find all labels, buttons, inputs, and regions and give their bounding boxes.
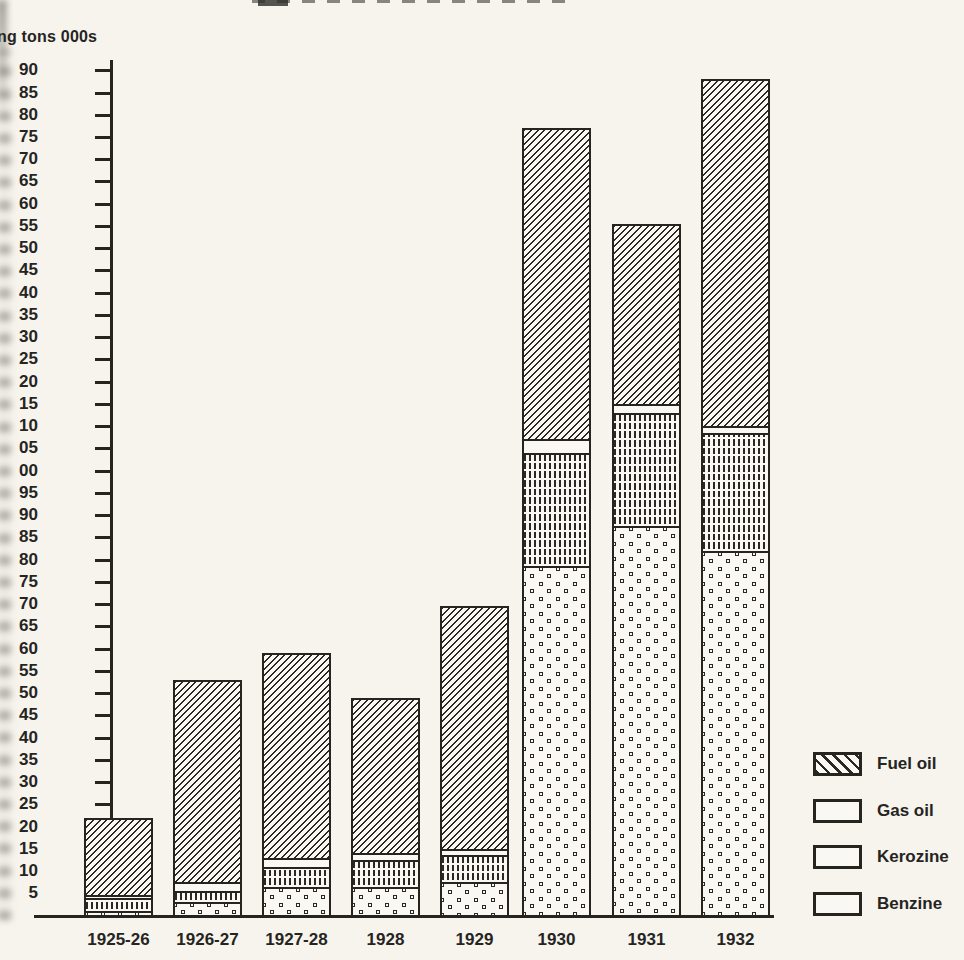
segment-fuel-oil: [86, 818, 151, 896]
y-tick-label: 30: [0, 772, 38, 792]
y-tick-label: 80: [0, 105, 38, 125]
y-tick-label: 50: [0, 683, 38, 703]
cropped-title-fragment: [252, 0, 567, 3]
y-tick: [95, 403, 110, 406]
segment-fuel-oil: [524, 128, 589, 439]
y-tick-label: 40: [0, 728, 38, 748]
bar-1930: [522, 128, 591, 915]
y-tick-label: 5: [0, 883, 38, 903]
x-axis-label-1930: 1930: [512, 930, 602, 950]
y-tick-label: 10: [0, 416, 38, 436]
x-axis-label-1925-26: 1925-26: [74, 930, 164, 950]
segment-gas-oil: [442, 849, 507, 856]
segment-gas-oil: [524, 439, 589, 452]
y-tick-label: 45: [0, 705, 38, 725]
y-tick-label: 25: [0, 349, 38, 369]
y-tick-label: 15: [0, 394, 38, 414]
y-tick-label: 05: [0, 438, 38, 458]
x-axis-label-1926-27: 1926-27: [163, 930, 253, 950]
bar-1926-27: [173, 680, 242, 916]
segment-gas-oil: [175, 882, 240, 891]
segment-benzine: [442, 882, 507, 915]
segment-gas-oil: [703, 426, 768, 433]
y-tick: [95, 737, 110, 740]
y-tick-label: 40: [0, 283, 38, 303]
scanned-chart-page: ng tons 000s 908580757065605550454035302…: [0, 0, 964, 960]
y-tick-label: 60: [0, 639, 38, 659]
y-tick-label: 20: [0, 372, 38, 392]
legend-label: Benzine: [877, 894, 942, 914]
y-tick: [95, 358, 110, 361]
y-tick: [95, 292, 110, 295]
segment-benzine: [86, 911, 151, 915]
y-tick: [95, 247, 110, 250]
y-tick: [95, 781, 110, 784]
cropped-title-initial: [258, 0, 288, 6]
y-tick-label: 75: [0, 572, 38, 592]
x-axis-label-1927-28: 1927-28: [252, 930, 342, 950]
y-tick-label: 30: [0, 327, 38, 347]
segment-kerozine: [703, 433, 768, 551]
segment-kerozine: [524, 453, 589, 566]
segment-kerozine: [442, 855, 507, 882]
y-tick-label: 55: [0, 661, 38, 681]
legend-item-benzine: Benzine: [813, 892, 963, 916]
legend-label: Fuel oil: [877, 754, 937, 774]
y-tick-label: 35: [0, 750, 38, 770]
segment-fuel-oil: [614, 224, 679, 404]
y-tick-label: 65: [0, 616, 38, 636]
y-tick: [95, 559, 110, 562]
y-tick: [95, 69, 110, 72]
y-tick: [95, 803, 110, 806]
y-tick: [95, 648, 110, 651]
segment-benzine: [703, 551, 768, 916]
segment-benzine: [264, 887, 329, 916]
y-axis-line: [110, 60, 113, 918]
legend-swatch-benzine: [813, 892, 862, 916]
y-tick: [95, 625, 110, 628]
y-tick-label: 60: [0, 194, 38, 214]
bar-1931: [612, 224, 681, 916]
y-tick: [95, 759, 110, 762]
y-tick-label: 70: [0, 594, 38, 614]
y-axis-title: ng tons 000s: [0, 28, 97, 46]
y-tick: [95, 670, 110, 673]
bar-1925-26: [84, 818, 153, 916]
segment-gas-oil: [264, 858, 329, 867]
y-tick: [95, 492, 110, 495]
y-tick-label: 85: [0, 527, 38, 547]
segment-gas-oil: [353, 853, 418, 860]
y-tick-label: 45: [0, 260, 38, 280]
legend-item-gas-oil: Gas oil: [813, 799, 963, 823]
y-tick: [95, 692, 110, 695]
segment-kerozine: [264, 867, 329, 887]
y-tick: [95, 114, 110, 117]
bar-1928: [351, 698, 420, 916]
legend-item-kerozine: Kerozine: [813, 845, 963, 869]
y-tick-label: 85: [0, 83, 38, 103]
y-tick-label: 90: [0, 60, 38, 80]
legend-swatch-gas-oil: [813, 799, 862, 823]
y-tick: [95, 603, 110, 606]
y-tick: [95, 269, 110, 272]
y-tick-label: 00: [0, 461, 38, 481]
y-tick-label: 75: [0, 127, 38, 147]
y-tick-label: 50: [0, 238, 38, 258]
segment-benzine: [353, 887, 418, 916]
segment-kerozine: [175, 891, 240, 902]
y-tick: [95, 514, 110, 517]
y-tick-label: 25: [0, 794, 38, 814]
y-tick: [95, 536, 110, 539]
y-tick-label: 90: [0, 505, 38, 525]
segment-kerozine: [614, 413, 679, 526]
legend-swatch-fuel-oil: [813, 752, 862, 776]
y-tick: [95, 225, 110, 228]
y-tick: [95, 470, 110, 473]
y-tick: [95, 180, 110, 183]
y-tick: [95, 714, 110, 717]
legend-item-fuel-oil: Fuel oil: [813, 752, 963, 776]
segment-gas-oil: [614, 404, 679, 413]
x-axis-label-1931: 1931: [602, 930, 692, 950]
y-tick-label: 95: [0, 483, 38, 503]
y-tick: [95, 203, 110, 206]
